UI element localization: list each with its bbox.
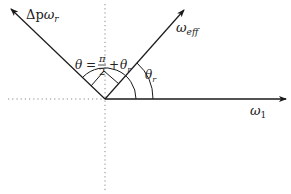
fraction-numerator: π	[98, 53, 106, 64]
theta-equation-label: θ = π 2 + θr	[75, 53, 132, 77]
omega-eff-vector-arrow	[105, 10, 184, 99]
theta-r-label: θr	[145, 68, 157, 84]
vector-diagram: Δpωr ωeff ω1 θr θ = π 2 + θr	[0, 0, 291, 194]
omega-eff-label: ωeff	[176, 20, 200, 37]
fraction-denominator: 2	[99, 66, 105, 77]
svg-text:θ: θ	[75, 58, 83, 72]
svg-text:θr: θr	[120, 58, 132, 74]
svg-text:+: +	[109, 58, 119, 72]
svg-text:=: =	[86, 58, 96, 72]
omega1-label: ω1	[250, 103, 266, 120]
delta-p-omega-r-label: Δpωr	[26, 7, 59, 24]
